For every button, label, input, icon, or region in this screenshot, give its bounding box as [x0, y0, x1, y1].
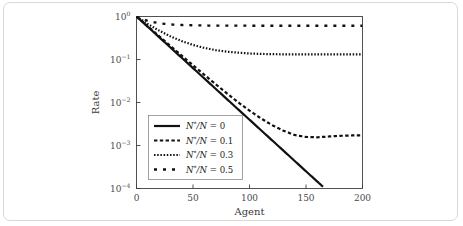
series-line-3	[137, 17, 363, 26]
x-tick-label-150: 150	[297, 193, 314, 203]
y-axis-title: Rate	[90, 91, 101, 115]
legend-label-1: N*/N = 0.1	[185, 135, 233, 146]
chart-legend: N*/N = 0N*/N = 0.1N*/N = 0.3N*/N = 0.5	[149, 116, 243, 180]
x-tick-label-0: 0	[134, 193, 140, 203]
y-tick-label-1e-1: 10−1	[110, 53, 131, 65]
y-tick-label-1e0: 100	[115, 10, 130, 22]
chart-figure: 050100150200 10010−110−210−310−4 Agent R…	[0, 0, 463, 226]
legend-label-0: N*/N = 0	[185, 120, 225, 131]
y-tick-label-1e-3: 10−3	[110, 139, 131, 151]
y-axis-tick-labels: 10010−110−210−310−4	[110, 10, 131, 194]
y-tick-label-1e-4: 10−4	[110, 182, 131, 194]
legend-label-2: N*/N = 0.3	[185, 149, 233, 160]
legend-label-3: N*/N = 0.5	[185, 164, 233, 175]
y-tick-label-1e-2: 10−2	[110, 96, 131, 108]
rate-vs-agent-semilog-chart: 050100150200 10010−110−210−310−4 Agent R…	[0, 0, 463, 226]
x-tick-label-100: 100	[241, 193, 258, 203]
x-axis-tick-labels: 050100150200	[134, 193, 372, 203]
x-axis-title: Agent	[234, 206, 265, 217]
x-tick-label-200: 200	[354, 193, 371, 203]
x-axis-ticks	[137, 185, 363, 189]
y-axis-ticks	[137, 17, 141, 189]
x-tick-label-50: 50	[187, 193, 199, 203]
